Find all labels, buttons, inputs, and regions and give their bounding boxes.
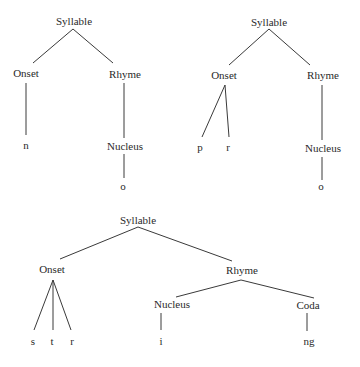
tree-3: Syllable Onset Rhyme Nucleus Coda s t r … — [31, 214, 320, 347]
edge-rhyme-nucleus — [176, 280, 241, 297]
segment-o: o — [318, 180, 324, 192]
edge-syllable-rhyme — [73, 29, 113, 63]
node-coda: Coda — [296, 299, 319, 311]
edge-syllable-rhyme — [269, 29, 310, 65]
node-nucleus: Nucleus — [154, 298, 190, 310]
edge-onset-r — [53, 280, 71, 330]
segment-o: o — [120, 180, 126, 192]
edge-onset-p — [202, 85, 225, 137]
node-rhyme: Rhyme — [307, 69, 339, 81]
node-syllable: Syllable — [251, 16, 287, 28]
segment-n: n — [23, 139, 29, 151]
segment-i: i — [159, 335, 162, 347]
segment-r: r — [70, 335, 74, 347]
edge-syllable-onset — [60, 227, 138, 259]
segment-p: p — [197, 141, 203, 153]
edge-onset-r — [225, 85, 229, 137]
edge-rhyme-coda — [241, 280, 314, 298]
syllable-trees-diagram: Syllable Onset Rhyme n Nucleus o Syllabl… — [0, 0, 360, 367]
node-nucleus: Nucleus — [305, 142, 341, 154]
segment-s: s — [31, 335, 35, 347]
node-onset: Onset — [211, 69, 237, 81]
segment-t: t — [50, 335, 53, 347]
node-onset: Onset — [13, 67, 39, 79]
segment-r: r — [226, 141, 230, 153]
edge-onset-s — [34, 280, 53, 330]
node-rhyme: Rhyme — [109, 68, 141, 80]
node-syllable: Syllable — [120, 214, 156, 226]
segment-ng: ng — [304, 335, 316, 347]
edge-syllable-onset — [33, 29, 73, 63]
node-rhyme: Rhyme — [226, 264, 258, 276]
edge-syllable-rhyme — [138, 227, 232, 261]
node-onset: Onset — [39, 263, 65, 275]
tree-1: Syllable Onset Rhyme n Nucleus o — [13, 15, 143, 192]
edge-syllable-onset — [229, 29, 269, 65]
node-syllable: Syllable — [56, 15, 92, 27]
tree-2: Syllable Onset Rhyme p r Nucleus o — [197, 16, 341, 192]
node-nucleus: Nucleus — [107, 140, 143, 152]
